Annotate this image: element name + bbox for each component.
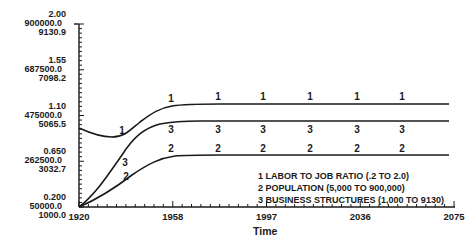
svg-text:1: 1: [215, 91, 221, 102]
x-tick-label: 1920: [68, 211, 89, 222]
y-tick-label: 1000.0: [38, 211, 66, 220]
legend-item-labor-to-job-ratio: 1 LABOR TO JOB RATIO (.2 TO 2.0): [258, 170, 444, 182]
svg-text:1: 1: [168, 93, 174, 104]
y-tick-label: 5065.5: [38, 120, 66, 129]
svg-text:2: 2: [260, 143, 266, 154]
svg-text:1: 1: [307, 91, 313, 102]
svg-text:2: 2: [307, 143, 313, 154]
y-tick-label-group: 0.20050000.01000.0: [0, 193, 66, 223]
legend-item-business-structures: 3 BUSINESS STRUCTURES (1,000 TO 9130): [258, 194, 444, 206]
y-tick-label: 9130.9: [38, 28, 66, 37]
svg-text:3: 3: [260, 124, 266, 135]
x-tick-label: 2036: [350, 211, 371, 222]
svg-text:1: 1: [354, 91, 360, 102]
y-tick-label-group: 2.00900000.09130.9: [0, 10, 66, 40]
svg-text:3: 3: [399, 124, 405, 135]
svg-text:3: 3: [215, 124, 221, 135]
legend-item-population: 2 POPULATION (5,000 TO 900,000): [258, 182, 444, 194]
y-axis-ticks: [79, 24, 84, 207]
svg-text:3: 3: [307, 124, 313, 135]
y-tick-label-group: 0.650262500.03032.7: [0, 147, 66, 177]
svg-text:3: 3: [354, 124, 360, 135]
y-tick-label-group: 1.10475000.05065.5: [0, 102, 66, 132]
svg-text:2: 2: [215, 143, 221, 154]
x-tick-label: 1958: [162, 211, 183, 222]
x-tick-label: 2075: [443, 211, 464, 222]
y-tick-label-group: 1.55687500.07098.2: [0, 56, 66, 86]
svg-text:2: 2: [354, 143, 360, 154]
svg-text:1: 1: [399, 91, 405, 102]
svg-text:3: 3: [168, 124, 174, 135]
svg-text:1: 1: [119, 125, 125, 136]
x-tick-label: 1997: [256, 211, 277, 222]
svg-text:2: 2: [399, 143, 405, 154]
y-tick-label: 7098.2: [38, 74, 66, 83]
svg-text:2: 2: [168, 143, 174, 154]
y-tick-label: 3032.7: [38, 165, 66, 174]
svg-text:3: 3: [122, 157, 128, 168]
svg-text:2: 2: [123, 171, 129, 182]
svg-text:1: 1: [260, 91, 266, 102]
x-axis-title: Time: [253, 225, 277, 237]
legend: 1 LABOR TO JOB RATIO (.2 TO 2.0) 2 POPUL…: [258, 170, 444, 206]
